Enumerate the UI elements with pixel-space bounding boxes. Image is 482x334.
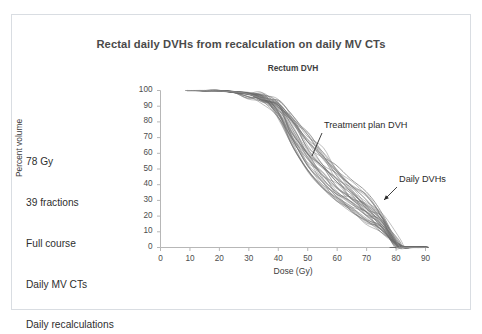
note-line-course: Full course — [26, 237, 114, 251]
note-line-imaging: Daily MV CTs — [26, 278, 114, 292]
chart-title: Rectum DVH — [160, 63, 426, 73]
notes-block: 78 Gy 39 fractions Full course Daily MV … — [26, 128, 114, 334]
note-line-fractions: 39 fractions — [26, 196, 114, 210]
page-title: Rectal daily DVHs from recalculation on … — [0, 38, 482, 50]
note-line-dose: 78 Gy — [26, 155, 114, 169]
note-line-recalc: Daily recalculations — [26, 318, 114, 332]
